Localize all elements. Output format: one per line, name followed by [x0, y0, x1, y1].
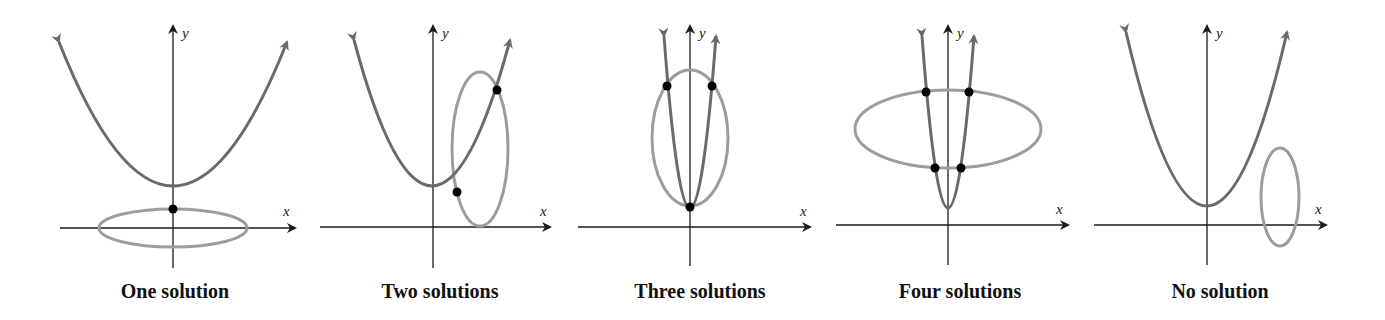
caption: One solution [45, 280, 305, 303]
intersection-point [922, 88, 931, 97]
intersection-point [957, 164, 966, 173]
y-axis-label: y [955, 25, 964, 41]
x-axis-label: x [282, 203, 290, 219]
x-axis-label: x [539, 203, 547, 219]
intersection-point [453, 188, 462, 197]
intersection-point [169, 205, 178, 214]
panel-two-solutions: x y Two solutions [310, 0, 570, 320]
intersection-point [663, 82, 672, 91]
panel-four-solutions: x y Four solutions [830, 0, 1090, 320]
caption: No solution [1090, 280, 1350, 303]
graph-no-solution: x y [1090, 0, 1385, 280]
x-axis-label: x [1055, 201, 1063, 217]
intersection-point [965, 88, 974, 97]
parabola [354, 40, 510, 186]
panel-three-solutions: x y Three solutions [570, 0, 830, 320]
graph-three-solutions: x y [570, 0, 830, 280]
y-axis-label: y [697, 25, 706, 41]
ellipse [452, 72, 508, 226]
intersection-point [493, 86, 502, 95]
ellipse [1261, 148, 1299, 246]
graph-two-solutions: x y [310, 0, 570, 280]
intersection-point [686, 203, 695, 212]
panel-no-solution: x y No solution [1090, 0, 1385, 320]
y-axis-label: y [1214, 25, 1223, 41]
graph-four-solutions: x y [830, 0, 1090, 280]
y-axis-label: y [440, 25, 449, 41]
y-axis-label: y [180, 25, 189, 41]
intersection-point [931, 164, 940, 173]
panel-one-solution: x y One solution [45, 0, 305, 320]
x-axis-label: x [799, 203, 807, 219]
intersection-point [708, 82, 717, 91]
caption: Four solutions [830, 280, 1090, 303]
x-axis-label: x [1314, 201, 1322, 217]
caption: Three solutions [570, 280, 830, 303]
caption: Two solutions [310, 280, 570, 303]
graph-one-solution: x y [45, 0, 305, 280]
